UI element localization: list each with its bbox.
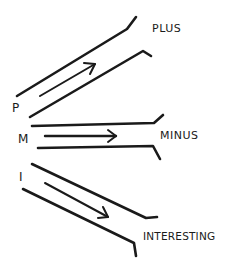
plus-upper-line	[17, 17, 136, 96]
plus-label: PLUS	[152, 22, 181, 35]
interesting-lower-line	[23, 189, 136, 256]
minus-lower-line	[38, 146, 160, 159]
p-letter: P	[12, 101, 19, 115]
plus-channel	[17, 17, 151, 117]
interesting-arrow-icon	[45, 183, 108, 218]
minus-label: MINUS	[160, 129, 199, 142]
minus-upper-line	[32, 115, 163, 126]
interesting-label: INTERESTING	[143, 230, 215, 242]
minus-channel	[32, 115, 163, 159]
minus-arrow-icon	[45, 130, 116, 142]
plus-arrow-icon	[40, 63, 95, 96]
plus-lower-line	[30, 51, 151, 117]
interesting-channel	[23, 164, 157, 256]
m-letter: M	[18, 132, 28, 146]
i-letter: I	[19, 170, 23, 184]
